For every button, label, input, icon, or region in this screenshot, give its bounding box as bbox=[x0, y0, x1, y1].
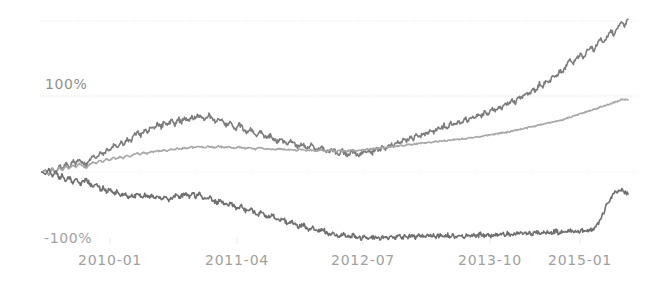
xtick-label-0: 2010-01 bbox=[78, 252, 142, 268]
xtick-label-3: 2013-10 bbox=[458, 252, 522, 268]
series-line-2 bbox=[42, 99, 628, 174]
xtick-label-4: 2015-01 bbox=[548, 252, 612, 268]
xaxis-ticks bbox=[110, 238, 580, 244]
ytick-label-bottom: -100% bbox=[44, 230, 92, 246]
gridlines bbox=[40, 21, 635, 172]
ytick-label-top: 100% bbox=[45, 76, 87, 92]
series-line-3 bbox=[42, 168, 628, 240]
series-paths bbox=[42, 19, 628, 240]
line-chart-plot bbox=[0, 0, 661, 293]
chart-container: 100% -100% 2010-01 2011-04 2012-07 2013-… bbox=[0, 0, 661, 293]
xtick-label-1: 2011-04 bbox=[205, 252, 269, 268]
xtick-label-2: 2012-07 bbox=[331, 252, 395, 268]
